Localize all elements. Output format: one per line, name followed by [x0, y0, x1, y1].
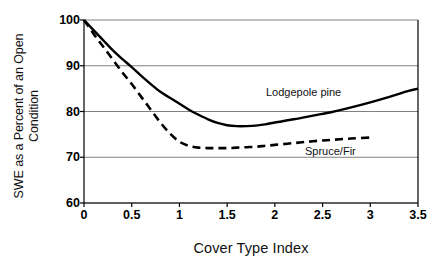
x-tick-label: 1 — [159, 208, 199, 222]
x-axis-title: Cover Type Index — [84, 240, 418, 256]
x-tick-label: 2 — [255, 208, 295, 222]
x-tick-labels: 00.511.522.533.5 — [0, 208, 444, 228]
y-tick-label: 70 — [46, 150, 80, 164]
x-tick-label: 1.5 — [207, 208, 247, 222]
y-tick-label: 100 — [46, 13, 80, 27]
series-label-spruce-fir: Spruce/Fir — [305, 145, 356, 157]
x-tick-label: 0 — [64, 208, 104, 222]
series-label-lodgepole-pine: Lodgepole pine — [266, 86, 341, 98]
chart-figure: SWE as a Percent of an Open Condition 60… — [0, 0, 444, 271]
x-tick-label: 3.5 — [398, 208, 438, 222]
tick-marks — [80, 20, 418, 207]
series-line-spruce-fir — [84, 20, 370, 148]
x-tick-label: 2.5 — [303, 208, 343, 222]
data-series — [84, 20, 418, 148]
y-tick-label: 80 — [46, 105, 80, 119]
x-tick-label: 3 — [350, 208, 390, 222]
series-line-lodgepole-pine — [84, 20, 418, 126]
y-tick-labels: 60708090100 — [44, 0, 80, 271]
x-tick-label: 0.5 — [112, 208, 152, 222]
y-tick-label: 90 — [46, 59, 80, 73]
gridlines — [84, 20, 418, 203]
